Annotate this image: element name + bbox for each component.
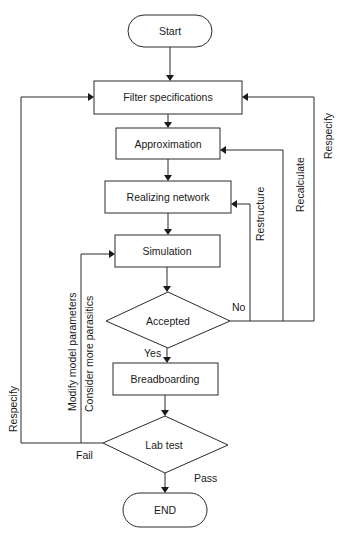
edge-approximation-realizing bbox=[164, 159, 172, 181]
arrow-head-icon bbox=[163, 286, 171, 292]
arrow-head-icon bbox=[242, 93, 248, 101]
filter-specifications-label: Filter specifications bbox=[123, 91, 212, 103]
edge-simulation-accepted bbox=[163, 267, 171, 292]
fail-label: Fail bbox=[76, 449, 93, 461]
accepted-decision-node: Accepted bbox=[106, 292, 230, 348]
arrow-head-icon bbox=[164, 175, 172, 181]
arrow-head-icon bbox=[161, 410, 169, 416]
arrow-head-icon bbox=[109, 250, 115, 258]
realizing-network-label: Realizing network bbox=[127, 191, 211, 203]
respecify-right-label: Respecify bbox=[322, 112, 334, 159]
filter-specifications-node: Filter specifications bbox=[94, 81, 242, 114]
consider-more-parasitics-label: Consider more parasitics bbox=[83, 296, 95, 412]
arrow-head-icon bbox=[163, 357, 171, 363]
edge-accepted-breadboarding: Yes bbox=[144, 347, 171, 363]
approximation-label: Approximation bbox=[134, 138, 201, 150]
breadboarding-node: Breadboarding bbox=[113, 363, 218, 395]
arrow-head-icon bbox=[88, 93, 94, 101]
yes-label: Yes bbox=[144, 347, 161, 359]
recalculate-label: Recalculate bbox=[294, 157, 306, 212]
edge-labtest-end: Pass bbox=[161, 472, 217, 493]
respecify-left-label: Respecify bbox=[7, 385, 19, 432]
restructure-label: Restructure bbox=[254, 187, 266, 241]
realizing-network-node: Realizing network bbox=[105, 181, 231, 213]
pass-label: Pass bbox=[194, 472, 217, 484]
simulation-label: Simulation bbox=[142, 245, 191, 257]
arrow-head-icon bbox=[164, 122, 172, 128]
start-node: Start bbox=[128, 15, 212, 47]
lab-test-label: Lab test bbox=[145, 439, 182, 451]
arrow-head-icon bbox=[164, 229, 172, 235]
arrow-head-icon bbox=[220, 146, 226, 154]
end-label: END bbox=[154, 504, 177, 516]
start-label: Start bbox=[159, 25, 181, 37]
breadboarding-label: Breadboarding bbox=[131, 373, 200, 385]
arrow-head-icon bbox=[161, 487, 169, 493]
edge-start-filter bbox=[166, 47, 174, 81]
edge-filter-approximation bbox=[164, 114, 172, 128]
edge-breadboarding-labtest bbox=[161, 395, 169, 416]
modify-model-parameters-label: Modify model parameters bbox=[66, 293, 78, 411]
simulation-node: Simulation bbox=[115, 235, 220, 267]
edge-labtest-fail-loops: Fail Modify model parameters Consider mo… bbox=[7, 93, 115, 461]
edge-realizing-simulation bbox=[164, 213, 172, 235]
end-node: END bbox=[123, 493, 207, 527]
no-label: No bbox=[232, 301, 246, 313]
flowchart-canvas: Start Filter specifications Approximatio… bbox=[0, 0, 347, 539]
arrow-head-icon bbox=[166, 75, 174, 81]
edge-accepted-no-loops: No Restructure Recalculate Respecify bbox=[220, 93, 334, 321]
approximation-node: Approximation bbox=[116, 128, 220, 159]
lab-test-decision-node: Lab test bbox=[103, 416, 228, 473]
accepted-label: Accepted bbox=[146, 315, 190, 327]
arrow-head-icon bbox=[231, 200, 237, 208]
